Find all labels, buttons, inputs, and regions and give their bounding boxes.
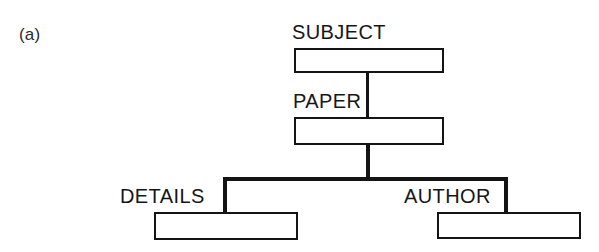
node-label-author: AUTHOR: [404, 185, 491, 207]
node-box-details: [154, 212, 298, 240]
node-box-author: [437, 212, 581, 239]
connector-horizontal-bus: [223, 177, 508, 181]
node-label-subject: SUBJECT: [292, 21, 386, 43]
figure-part-label: (a): [19, 25, 40, 45]
node-label-details: DETAILS: [120, 185, 205, 207]
node-label-paper: PAPER: [293, 90, 361, 112]
diagram-canvas: (a) SUBJECT PAPER DETAILS AUTHOR: [0, 0, 599, 252]
connector-subject-to-paper: [366, 72, 369, 118]
connector-bus-to-author: [504, 177, 508, 213]
node-box-subject: [294, 48, 444, 73]
connector-paper-to-bus: [366, 144, 370, 180]
node-box-paper: [294, 117, 444, 145]
connector-bus-to-details: [223, 177, 227, 213]
